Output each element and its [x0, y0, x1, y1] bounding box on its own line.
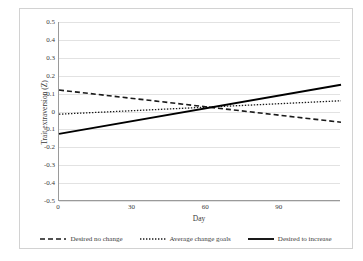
- y-axis-tick-label: -0.1: [19, 125, 55, 133]
- y-axis-tick-labels: 0.50.40.30.20.10-0.1-0.2-0.3-0.4-0.5: [19, 22, 55, 201]
- y-axis-tick-label: 0.5: [19, 18, 55, 26]
- series-line: [59, 101, 341, 114]
- series-line: [59, 90, 341, 122]
- x-axis-title: Day: [58, 214, 340, 224]
- x-axis-tick-label: 60: [202, 203, 209, 212]
- x-axis-tick-label: 30: [128, 203, 135, 212]
- legend-item[interactable]: Average change goals: [140, 235, 231, 244]
- legend-item[interactable]: Desired no change: [40, 235, 122, 244]
- y-axis-tick-label: -0.3: [19, 161, 55, 169]
- y-axis-tick-label: 0.4: [19, 36, 55, 44]
- y-axis-tick-label: -0.5: [19, 197, 55, 205]
- series-line: [59, 85, 341, 134]
- chart-legend: Desired no changeAverage change goalsDes…: [22, 232, 350, 246]
- y-axis-tick-label: 0.1: [19, 90, 55, 98]
- chart-figure: Trait extraversion (Z) 0.50.40.30.20.10-…: [0, 0, 363, 261]
- legend-line-swatch-icon: [248, 236, 274, 242]
- y-axis-tick-label: 0: [19, 108, 55, 116]
- y-axis-tick-label: 0.3: [19, 54, 55, 62]
- y-axis-tick-label: -0.2: [19, 143, 55, 151]
- series-layer: [59, 22, 341, 201]
- legend-label: Desired no change: [70, 235, 122, 244]
- y-axis-tick-label: -0.4: [19, 179, 55, 187]
- legend-line-swatch-icon: [40, 236, 66, 242]
- legend-label: Desired to increase: [278, 235, 332, 244]
- x-axis-tick-label: 90: [275, 203, 282, 212]
- y-axis-tick-label: 0.2: [19, 72, 55, 80]
- plot-area: [58, 22, 340, 201]
- legend-label: Average change goals: [170, 235, 231, 244]
- legend-item[interactable]: Desired to increase: [248, 235, 332, 244]
- x-axis-tick-label: 0: [56, 203, 60, 212]
- legend-line-swatch-icon: [140, 236, 166, 242]
